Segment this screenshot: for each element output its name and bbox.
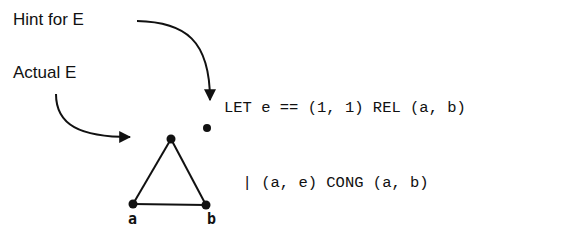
vertex-a	[129, 200, 138, 209]
actual-arrow	[56, 94, 130, 137]
hint-arrow	[137, 21, 210, 100]
vertex-a-label: a	[128, 210, 137, 228]
code-block: LET e == (1, 1) REL (a, b) | (a, e) CONG…	[224, 46, 512, 233]
vertex-e	[167, 135, 176, 144]
vertex-b-label: b	[207, 210, 216, 228]
code-line: | (a, e) CONG (a, b)	[224, 171, 512, 196]
vertex-b	[202, 201, 211, 210]
hint-point	[203, 124, 211, 132]
code-line: LET e == (1, 1) REL (a, b)	[224, 96, 512, 121]
